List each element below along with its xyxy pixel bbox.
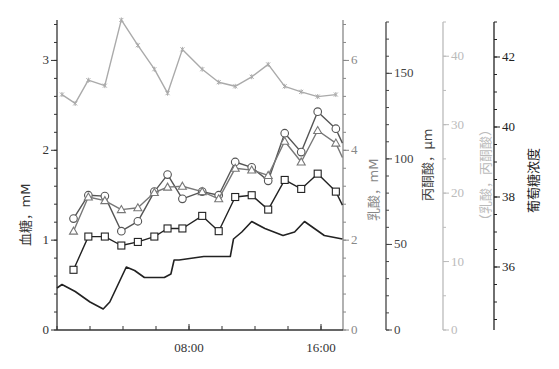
point-stars (136, 43, 140, 48)
point-squares (232, 194, 239, 201)
point-squares (332, 188, 339, 195)
series-line-circles (74, 112, 343, 232)
tick-label-lactate: 2 (351, 232, 358, 247)
point-stars (119, 17, 123, 22)
tick-label-glucose: 36 (502, 259, 516, 274)
point-squares (199, 212, 206, 219)
tick-label-blood: 3 (43, 52, 50, 67)
point-circles (297, 148, 305, 156)
point-circles (134, 217, 142, 225)
point-stars (73, 101, 77, 106)
point-squares (134, 238, 141, 245)
point-squares (215, 228, 222, 235)
point-squares (118, 242, 125, 249)
point-circles (179, 195, 187, 203)
point-squares (164, 225, 171, 232)
axis-title-pyruvate: 丙酮酸，μm (420, 129, 435, 202)
point-squares (179, 225, 186, 232)
point-circles (314, 108, 322, 116)
point-stars (200, 67, 204, 72)
point-stars (152, 67, 156, 72)
point-stars (180, 47, 184, 52)
tick-label-pyruvate: 100 (394, 151, 414, 166)
series-line-stars (62, 20, 336, 104)
tick-label-blood: 2 (43, 142, 50, 157)
x-tick-label: 08:00 (174, 340, 204, 355)
point-triangles (314, 127, 322, 134)
axis-title-lactate: 乳酸，mM (366, 159, 381, 222)
tick-label-lactate: 4 (351, 142, 358, 157)
point-stars (266, 62, 270, 67)
series-line-continuous (57, 222, 342, 310)
tick-label-ratio: 40 (451, 48, 464, 63)
axis-title-blood: 血糖，mM (18, 184, 33, 247)
tick-label-pyruvate: 50 (394, 236, 407, 251)
tick-label-pyruvate: 0 (394, 322, 401, 337)
tick-label-glucose: 40 (502, 119, 515, 134)
point-squares (85, 233, 92, 240)
x-tick-label: 16:00 (306, 340, 336, 355)
point-squares (265, 206, 272, 213)
point-circles (164, 171, 172, 179)
point-squares (70, 266, 77, 273)
point-stars (60, 92, 64, 97)
point-stars (166, 91, 170, 96)
tick-label-blood: 0 (43, 322, 50, 337)
axis-title-glucose: 葡萄糖浓度 (526, 148, 541, 213)
tick-label-lactate: 0 (351, 322, 358, 337)
tick-label-glucose: 42 (502, 49, 515, 64)
point-squares (281, 176, 288, 183)
point-squares (101, 233, 108, 240)
point-squares (298, 185, 305, 192)
tick-label-ratio: 30 (451, 117, 464, 132)
point-circles (281, 129, 289, 137)
multi-axis-line-chart: 0123血糖，mM0246乳酸，mM050100150丙酮酸，μm0102030… (0, 0, 559, 369)
point-triangles (332, 139, 340, 146)
tick-label-blood: 1 (43, 232, 50, 247)
point-squares (314, 170, 321, 177)
point-triangles (70, 227, 78, 234)
tick-label-glucose: 38 (502, 189, 515, 204)
point-squares (151, 233, 158, 240)
tick-label-ratio: 10 (451, 254, 464, 269)
point-circles (118, 227, 126, 235)
series-layer (57, 17, 342, 309)
tick-label-lactate: 6 (351, 52, 358, 67)
point-circles (332, 125, 340, 133)
point-circles (70, 215, 78, 223)
point-stars (250, 74, 254, 79)
tick-label-ratio: 20 (451, 185, 464, 200)
tick-label-pyruvate: 150 (394, 65, 414, 80)
point-squares (248, 192, 255, 199)
tick-label-ratio: 0 (451, 322, 458, 337)
axis-title-ratio: （乳酸，丙酮酸） (478, 123, 493, 227)
